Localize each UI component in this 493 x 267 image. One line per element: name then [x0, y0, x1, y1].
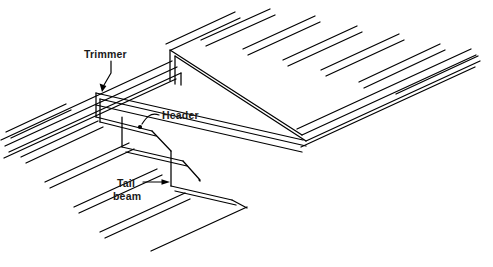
diagram-background: [0, 0, 493, 267]
floor-framing-diagram: Trimmer Header Tail beam: [0, 0, 493, 267]
opening-corner-notch: [199, 180, 200, 181]
tail-beam-label-line1: Tail: [117, 177, 135, 189]
header-label-text: Header: [162, 109, 199, 121]
tail-beam-label-line2: beam: [113, 190, 141, 202]
framing-diagram-root: Trimmer Header Tail beam: [0, 0, 493, 267]
header-leader-dot: [138, 125, 142, 129]
trimmer-label-text: Trimmer: [84, 48, 127, 60]
